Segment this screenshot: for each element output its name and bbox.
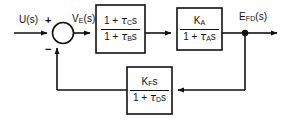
block-diagram-figure: U(s) + − VE(s) EFD(s) 1 + τCs 1 + τBs KA… xyxy=(0,0,289,121)
amplifier-num-sub: A xyxy=(201,19,206,26)
input-signal-label: U(s) xyxy=(19,15,38,25)
summing-plus-sign: + xyxy=(45,15,51,26)
lead-lag-den-post: s xyxy=(132,31,137,42)
feedback-num-post: s xyxy=(152,76,157,87)
feedback-numerator: KFs xyxy=(139,76,161,90)
feedback-denominator: 1 + τDs xyxy=(130,90,169,105)
input-signal-text: U(s) xyxy=(19,14,38,25)
feedback-den-post: s xyxy=(161,92,166,103)
amplifier-den-pre: 1 + xyxy=(183,31,200,42)
lead-lag-num-post: s xyxy=(132,15,137,26)
amplifier-denominator: 1 + τAs xyxy=(180,29,219,44)
output-signal-label: EFD(s) xyxy=(239,12,267,22)
error-signal-base: V xyxy=(72,13,79,24)
amplifier-numerator: KA xyxy=(191,15,208,29)
summing-junction-circle xyxy=(53,23,74,44)
feedback-den-pre: 1 + xyxy=(133,92,150,103)
amplifier-den-post: s xyxy=(211,31,216,42)
error-signal-suffix: (s) xyxy=(84,13,96,24)
lead-lag-num-pre: 1 + xyxy=(104,15,121,26)
summing-minus-sign: − xyxy=(45,44,51,55)
output-signal-base: E xyxy=(239,11,246,22)
lead-lag-den-pre: 1 + xyxy=(104,31,121,42)
amplifier-block-expression: KA 1 + τAs xyxy=(177,8,222,50)
amplifier-num-pre: K xyxy=(194,15,201,26)
output-signal-sub: FD xyxy=(246,15,256,22)
lead-lag-denominator: 1 + τBs xyxy=(101,29,140,44)
feedback-block-expression: KFs 1 + τDs xyxy=(127,67,172,114)
lead-lag-block-expression: 1 + τCs 1 + τBs xyxy=(96,5,145,53)
error-signal-label: VE(s) xyxy=(72,14,96,24)
output-signal-suffix: (s) xyxy=(255,11,267,22)
lead-lag-numerator: 1 + τCs xyxy=(101,15,140,29)
